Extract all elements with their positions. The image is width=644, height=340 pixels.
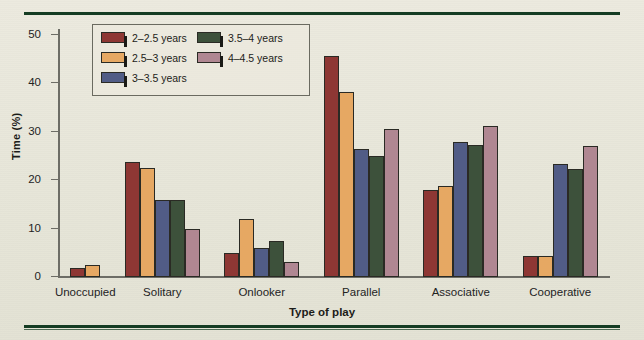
- bar-group: Associative: [423, 35, 498, 277]
- legend-label: 2–2.5 years: [132, 32, 187, 44]
- top-rule: [24, 12, 620, 15]
- y-tick: 0: [51, 276, 58, 277]
- bar: [324, 56, 339, 277]
- legend-swatch-icon: [101, 72, 125, 83]
- legend-swatch-icon: [101, 32, 125, 43]
- bar: [384, 129, 399, 277]
- y-tick-label: 40: [28, 76, 41, 88]
- y-tick-label: 10: [28, 222, 41, 234]
- legend-item[interactable]: 3–3.5 years: [101, 71, 187, 84]
- y-tick-label: 0: [35, 270, 41, 282]
- legend: 2–2.5 years2.5–3 years3–3.5 years3.5–4 y…: [92, 24, 310, 96]
- bar: [423, 190, 438, 277]
- bar: [483, 126, 498, 277]
- bar: [125, 162, 140, 277]
- bar: [70, 268, 85, 277]
- bar: [583, 146, 598, 277]
- y-tick-label: 30: [28, 125, 41, 137]
- y-tick: 40: [51, 82, 58, 83]
- legend-item[interactable]: 4–4.5 years: [197, 51, 283, 64]
- bar: [339, 92, 354, 277]
- y-tick: 10: [51, 228, 58, 229]
- legend-label: 2.5–3 years: [132, 52, 187, 64]
- bar: [269, 241, 284, 277]
- bar-group: Cooperative: [523, 35, 598, 277]
- bar: [185, 229, 200, 277]
- y-tick-label: 20: [28, 173, 41, 185]
- legend-label: 3.5–4 years: [228, 32, 283, 44]
- x-axis-label: Type of play: [0, 306, 644, 318]
- y-tick: 50: [51, 34, 58, 35]
- bar: [140, 168, 155, 277]
- bar: [170, 200, 185, 277]
- bar: [85, 265, 100, 277]
- x-tick-label: Parallel: [342, 286, 380, 298]
- bar: [284, 262, 299, 277]
- bar: [453, 142, 468, 277]
- bar: [468, 145, 483, 277]
- bar: [438, 186, 453, 277]
- bar: [254, 248, 269, 277]
- bar: [568, 169, 583, 277]
- bar: [224, 253, 239, 277]
- y-tick: 30: [51, 131, 58, 132]
- x-tick-label: Solitary: [143, 286, 181, 298]
- legend-swatch-icon: [197, 52, 221, 63]
- bar: [553, 164, 568, 277]
- bar: [354, 149, 369, 277]
- bar: [369, 156, 384, 277]
- legend-swatch-icon: [197, 32, 221, 43]
- bottom-rule: [24, 325, 620, 328]
- legend-swatch-icon: [101, 52, 125, 63]
- legend-item[interactable]: 2.5–3 years: [101, 51, 187, 64]
- y-tick-label: 50: [28, 28, 41, 40]
- bar: [155, 200, 170, 277]
- legend-label: 3–3.5 years: [132, 72, 187, 84]
- bar: [538, 256, 553, 277]
- legend-item[interactable]: 3.5–4 years: [197, 31, 283, 44]
- bar-group: Parallel: [324, 35, 399, 277]
- legend-label: 4–4.5 years: [228, 52, 283, 64]
- bar: [239, 219, 254, 277]
- legend-item[interactable]: 2–2.5 years: [101, 31, 187, 44]
- x-tick-label: Onlooker: [238, 286, 285, 298]
- y-tick: 20: [51, 179, 58, 180]
- y-axis-label: Time (%): [10, 113, 22, 160]
- legend-columns: 2–2.5 years2.5–3 years3–3.5 years3.5–4 y…: [101, 31, 301, 84]
- x-tick-label: Unoccupied: [55, 286, 116, 298]
- legend-column: 3.5–4 years4–4.5 years: [197, 31, 283, 84]
- bar: [523, 256, 538, 277]
- x-tick-label: Associative: [432, 286, 490, 298]
- legend-column: 2–2.5 years2.5–3 years3–3.5 years: [101, 31, 187, 84]
- x-tick-label: Cooperative: [529, 286, 591, 298]
- figure: Time (%) Type of play 01020304050 Unoccu…: [0, 0, 644, 340]
